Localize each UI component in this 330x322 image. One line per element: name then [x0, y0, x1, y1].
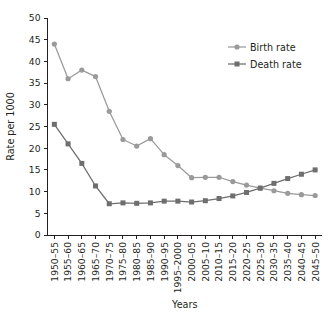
x-tick-label: 2030–35 — [268, 242, 279, 282]
data-point — [203, 175, 208, 180]
data-point — [162, 152, 167, 157]
x-tick-label: 1985–90 — [145, 242, 156, 282]
data-point — [107, 201, 112, 206]
x-tick-label: 2040–45 — [296, 242, 307, 282]
data-point — [93, 74, 98, 79]
x-tick-label: 2035–40 — [282, 242, 293, 282]
data-point — [107, 109, 112, 114]
y-tick-label: 15 — [29, 164, 41, 175]
data-point — [216, 175, 221, 180]
x-tick-label: 1965–70 — [90, 242, 101, 282]
y-tick-label: 20 — [29, 143, 41, 154]
data-point — [217, 196, 222, 201]
legend-label: Birth rate — [250, 42, 296, 53]
x-tick-label: 1955–60 — [62, 242, 73, 282]
data-point — [271, 188, 276, 193]
x-tick-label: 1950–55 — [49, 242, 60, 282]
y-tick-label: 0 — [35, 229, 41, 240]
data-point — [244, 190, 249, 195]
data-point — [52, 41, 57, 46]
data-point — [79, 67, 84, 72]
y-tick-label: 25 — [29, 121, 41, 132]
data-point — [258, 186, 263, 191]
data-point — [189, 175, 194, 180]
x-tick-label: 1995–2000 — [172, 242, 183, 294]
data-point — [285, 191, 290, 196]
data-point — [285, 176, 290, 181]
data-point — [230, 193, 235, 198]
x-tick-label: 1960–65 — [76, 242, 87, 282]
data-point — [175, 199, 180, 204]
y-tick-label: 10 — [29, 186, 41, 197]
data-point — [244, 182, 249, 187]
data-point — [148, 200, 153, 205]
y-tick-label: 30 — [29, 99, 41, 110]
data-point — [203, 198, 208, 203]
x-tick-label: 2020–25 — [241, 242, 252, 282]
x-tick-label: 2010–15 — [213, 242, 224, 282]
y-axis-title: Rate per 1000 — [5, 92, 16, 160]
data-point — [299, 192, 304, 197]
y-tick-label: 45 — [29, 34, 41, 45]
x-tick-label: 1975–80 — [117, 242, 128, 282]
x-tick-label: 2005–10 — [200, 242, 211, 282]
data-point — [79, 161, 84, 166]
data-point — [313, 167, 318, 172]
x-tick-label: 1990–95 — [159, 242, 170, 282]
chart-canvas: 05101520253035404550 1950–551955–601960–… — [0, 0, 330, 322]
data-point — [120, 137, 125, 142]
y-tick-label: 50 — [29, 12, 41, 23]
y-tick-label: 5 — [35, 208, 41, 219]
x-axis-title: Years — [171, 299, 197, 310]
data-point — [230, 179, 235, 184]
data-point — [313, 193, 318, 198]
x-tick-label: 1970–75 — [104, 242, 115, 282]
x-tick-label: 1980–85 — [131, 242, 142, 282]
legend-label: Death rate — [250, 59, 302, 70]
data-point — [65, 76, 70, 81]
data-point — [162, 199, 167, 204]
data-point — [93, 183, 98, 188]
x-tick-label: 2045–50 — [310, 242, 321, 282]
data-point — [66, 141, 71, 146]
data-point — [175, 163, 180, 168]
data-point — [271, 181, 276, 186]
x-tick-label: 2015–20 — [227, 242, 238, 282]
line-chart: 05101520253035404550 1950–551955–601960–… — [0, 0, 330, 322]
legend-marker — [235, 62, 240, 67]
data-point — [120, 200, 125, 205]
data-point — [148, 136, 153, 141]
data-point — [134, 201, 139, 206]
data-point — [189, 200, 194, 205]
y-tick-label: 35 — [29, 77, 41, 88]
data-point — [52, 122, 57, 127]
x-tick-label: 2025–30 — [255, 242, 266, 282]
data-point — [134, 143, 139, 148]
data-point — [299, 172, 304, 177]
legend-marker — [234, 44, 239, 49]
y-tick-label: 40 — [29, 56, 41, 67]
x-tick-label: 2000–05 — [186, 242, 197, 282]
